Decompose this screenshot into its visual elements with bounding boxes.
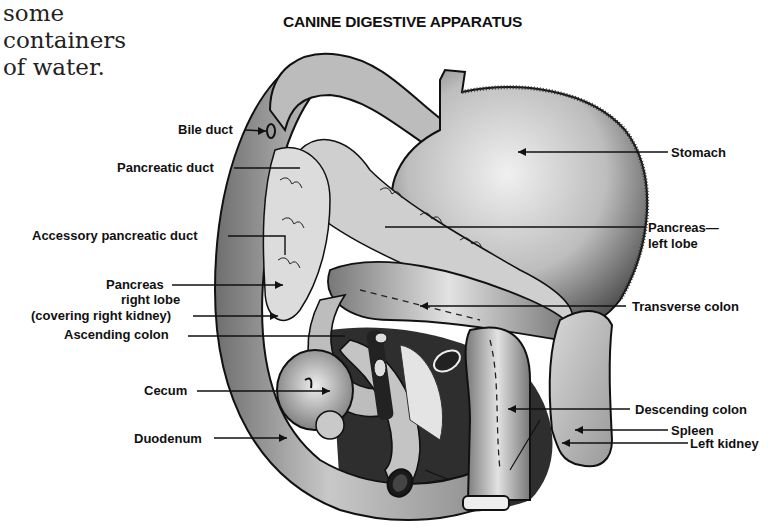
label-descending-colon: Descending colon [635,402,747,417]
descending-colon-shape [466,327,530,500]
label-stomach: Stomach [671,145,726,160]
label-accessory-pancreatic-duct: Accessory pancreatic duct [32,228,197,243]
label-left-kidney: Left kidney [690,436,759,451]
label-pancreas-left-lobe-line1: Pancreas— [648,220,719,235]
label-cecum: Cecum [144,383,187,398]
label-pancreas-right-lobe-line2: right lobe [121,292,180,307]
digestive-apparatus-illustration [0,0,775,530]
vessel-cut-top [375,333,387,343]
label-pancreas-left-lobe-line2: left lobe [648,236,698,251]
descending-colon-cut-end [463,496,509,510]
label-pancreas-right-lobe-line1: Pancreas [106,277,164,292]
label-bile-duct: Bile duct [178,122,233,137]
label-duodenum: Duodenum [134,431,202,446]
pancreas-right-lobe-shape [263,147,330,320]
label-transverse-colon: Transverse colon [632,299,739,314]
label-ascending-colon: Ascending colon [64,327,169,342]
vessel-cut-mid [374,359,386,377]
label-pancreas-right-lobe-line3: (covering right kidney) [31,308,171,323]
cecum-appendix [316,411,344,439]
label-pancreatic-duct: Pancreatic duct [117,160,214,175]
